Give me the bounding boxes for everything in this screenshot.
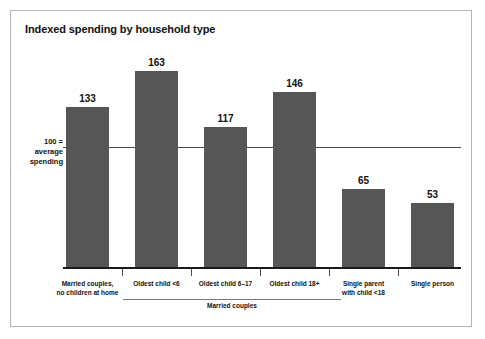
category-label-line2: with child <18 bbox=[328, 288, 399, 297]
bar-value-label: 133 bbox=[66, 93, 109, 104]
category-label-line1: Married couples, bbox=[52, 279, 123, 288]
reference-label-line2: average bbox=[21, 147, 63, 157]
group-bracket-label: Married couples bbox=[123, 302, 341, 309]
bar-value-label: 117 bbox=[204, 113, 247, 124]
chart-frame: Indexed spending by household type 100 =… bbox=[10, 10, 472, 327]
bar-value-label: 163 bbox=[135, 57, 178, 68]
bar-oldest-child-6-17[interactable] bbox=[204, 127, 247, 267]
bar-value-label: 53 bbox=[411, 189, 454, 200]
bar-oldest-child-under-6[interactable] bbox=[135, 71, 178, 267]
category-label-line1: Single parent bbox=[328, 279, 399, 288]
axis-tick bbox=[329, 269, 330, 276]
reference-label-line3: spending bbox=[21, 157, 63, 167]
category-label-single-parent: Single parent with child <18 bbox=[328, 279, 399, 297]
reference-label-line1: 100 = bbox=[21, 137, 63, 147]
axis-tick bbox=[260, 269, 261, 276]
plot-area: 100 = average spending 133 163 117 146 6… bbox=[11, 11, 471, 326]
axis-tick bbox=[398, 269, 399, 276]
bar-single-parent[interactable] bbox=[342, 189, 385, 267]
category-label-line1: Oldest child 18+ bbox=[259, 279, 330, 288]
group-bracket-line bbox=[123, 299, 341, 300]
bar-single-person[interactable] bbox=[411, 203, 454, 267]
category-label-married-no-children: Married couples, no children at home bbox=[52, 279, 123, 297]
category-label-single-person: Single person bbox=[397, 279, 468, 288]
bar-value-label: 146 bbox=[273, 78, 316, 89]
category-label-line1: Single person bbox=[397, 279, 468, 288]
bar-oldest-child-18-plus[interactable] bbox=[273, 92, 316, 267]
bar-value-label: 65 bbox=[342, 175, 385, 186]
category-label-oldest-child-under-6: Oldest child <6 bbox=[121, 279, 192, 288]
reference-line-label: 100 = average spending bbox=[21, 137, 63, 167]
axis-tick bbox=[122, 269, 123, 276]
reference-line-100 bbox=[63, 147, 461, 148]
category-label-line1: Oldest child 6–17 bbox=[190, 279, 261, 288]
category-label-oldest-child-18-plus: Oldest child 18+ bbox=[259, 279, 330, 288]
category-label-oldest-child-6-17: Oldest child 6–17 bbox=[190, 279, 261, 288]
bar-married-no-children[interactable] bbox=[66, 107, 109, 267]
category-label-line1: Oldest child <6 bbox=[121, 279, 192, 288]
category-label-line2: no children at home bbox=[52, 288, 123, 297]
axis-tick bbox=[191, 269, 192, 276]
